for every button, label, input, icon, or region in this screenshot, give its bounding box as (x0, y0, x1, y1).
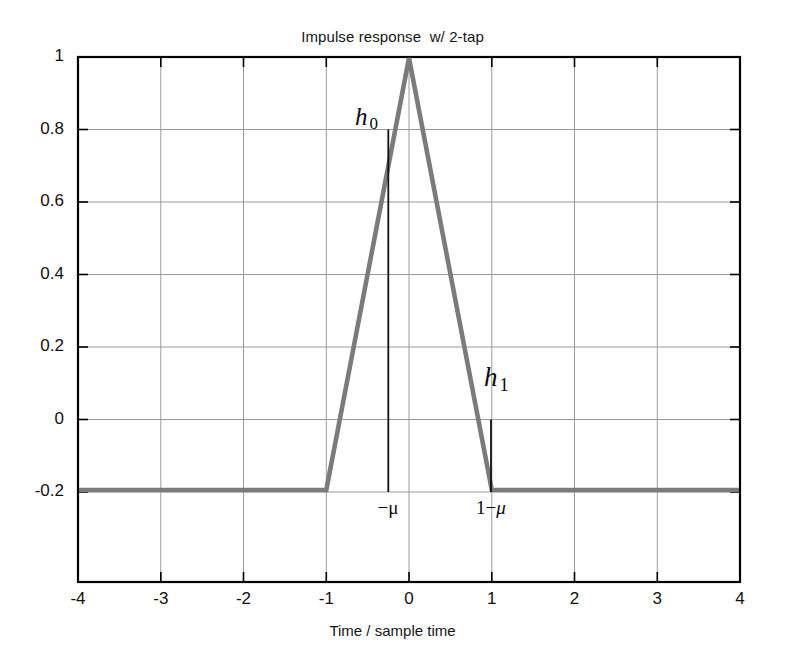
h0-subscript: 0 (368, 114, 379, 133)
y-tick-label-neg0p2: -0.2 (4, 481, 64, 501)
x-tick-label-neg1: -1 (306, 589, 346, 609)
mu-symbol: μ (496, 497, 506, 518)
x-axis-label: Time / sample time (0, 622, 785, 639)
x-tick-label-2: 2 (555, 589, 595, 609)
x-tick-label-neg2: -2 (224, 589, 264, 609)
figure-canvas: Impulse response w/ 2-tap (0, 0, 785, 663)
neg-mu-annotation: −μ (358, 497, 418, 519)
h1-annotation: h1 (484, 362, 509, 396)
y-tick-label-0p2: 0.2 (4, 336, 64, 356)
x-tick-label-1: 1 (472, 589, 512, 609)
y-tick-label-0p6: 0.6 (4, 191, 64, 211)
y-tick-label-1: 1 (4, 46, 64, 66)
y-tick-label-0p8: 0.8 (4, 119, 64, 139)
h1-symbol: h (484, 362, 498, 392)
y-tick-label-0p4: 0.4 (4, 264, 64, 284)
x-tick-label-0: 0 (389, 589, 429, 609)
h0-annotation: h0 (355, 103, 378, 134)
x-tick-label-neg3: -3 (141, 589, 181, 609)
one-minus-mu-prefix: 1− (476, 497, 496, 518)
plot-area (0, 0, 785, 663)
y-tick-label-0: 0 (4, 409, 64, 429)
x-tick-label-3: 3 (637, 589, 677, 609)
x-tick-label-neg4: -4 (58, 589, 98, 609)
h1-subscript: 1 (498, 375, 509, 395)
one-minus-mu-annotation: 1−μ (459, 497, 523, 519)
x-tick-label-4: 4 (720, 589, 760, 609)
h0-symbol: h (355, 103, 368, 130)
